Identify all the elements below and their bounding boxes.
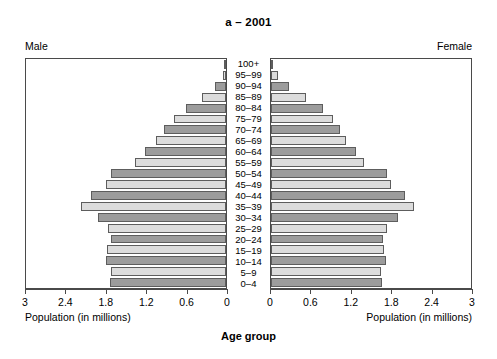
bar-male-80_84 [186,104,226,113]
bar-male-70_74 [164,125,226,134]
bar-male-55_59 [135,158,226,167]
bar-male-30_34 [98,213,226,222]
bar-row [271,212,471,223]
male-axis-caption: Population (in millions) [25,311,131,323]
bar-row [26,157,226,168]
bar-male-15_19 [107,245,226,254]
bar-row [271,234,471,245]
bar-female-90_94 [271,82,289,91]
bar-row [271,146,471,157]
bar-female-70_74 [271,125,340,134]
bar-row [271,124,471,135]
bar-female-45_49 [271,180,391,189]
bar-row [271,81,471,92]
bar-female-40_44 [271,191,405,200]
age-group-label: 30–34 [227,212,270,223]
axis-tick-label: 1.8 [384,296,399,308]
bar-male-75_79 [174,115,226,124]
bar-row [26,92,226,103]
bar-female-20_24 [271,235,383,244]
axis-tick [25,289,26,294]
age-group-label: 40–44 [227,190,270,201]
age-group-label: 60–64 [227,146,270,157]
bar-male-50_54 [111,169,226,178]
axis-tick [146,289,147,294]
bar-female-0_4 [271,278,382,287]
bar-male-95_99 [223,71,226,80]
axis-tick-label: 0 [267,296,273,308]
bar-row [271,201,471,212]
bar-row [26,201,226,212]
bar-female-30_34 [271,213,398,222]
bar-male-85_89 [202,93,226,102]
axis-line [270,289,472,290]
female-side-label: Female [437,40,472,52]
bar-row [26,70,226,81]
axis-tick-label: 1.8 [98,296,113,308]
axis-tick-label: 1.2 [343,296,358,308]
age-group-label: 100+ [227,58,270,69]
bar-row [271,59,471,70]
male-side-label: Male [25,40,48,52]
bar-row [26,190,226,201]
bar-female-10_14 [271,256,386,265]
bar-row [26,244,226,255]
male-bar-rows [26,59,226,288]
axis-tick [310,289,311,294]
chart-title: a – 2001 [0,16,497,28]
bar-female-55_59 [271,158,364,167]
bar-row [26,277,226,288]
bar-row [271,244,471,255]
age-group-label: 85–89 [227,91,270,102]
bar-row [271,92,471,103]
bar-row [26,266,226,277]
age-group-label: 50–54 [227,168,270,179]
bar-female-80_84 [271,104,323,113]
age-group-label: 15–19 [227,245,270,256]
axis-title: Age group [0,330,497,342]
female-plot-area [270,58,472,289]
axis-tick-label: 3 [22,296,28,308]
bar-female-95_99 [271,71,278,80]
age-group-label: 75–79 [227,113,270,124]
bar-male-0_4 [110,278,226,287]
age-group-label: 95–99 [227,69,270,80]
bar-male-35_39 [81,202,226,211]
female-x-axis [270,289,472,295]
bar-row [271,70,471,81]
age-group-label: 5–9 [227,267,270,278]
male-plot-area [25,58,227,289]
axis-tick [187,289,188,294]
male-x-tick-labels: 32.41.81.20.60 [25,296,227,310]
bar-row [271,266,471,277]
bar-row [26,81,226,92]
bar-male-10_14 [106,256,226,265]
axis-tick-label: 2.4 [424,296,439,308]
bar-male-40_44 [91,191,226,200]
bar-female-75_79 [271,115,333,124]
bar-female-60_64 [271,147,356,156]
age-group-label: 70–74 [227,124,270,135]
bar-female-85_89 [271,93,306,102]
bar-male-25_29 [108,224,226,233]
axis-tick [106,289,107,294]
bar-row [26,103,226,114]
bar-row [26,212,226,223]
female-axis-caption: Population (in millions) [366,311,472,323]
bar-male-45_49 [106,180,226,189]
bar-row [26,124,226,135]
bar-row [26,114,226,125]
bar-row [26,255,226,266]
axis-tick [432,289,433,294]
age-group-label: 10–14 [227,256,270,267]
female-bar-rows [271,59,471,288]
bar-male-90_94 [215,82,226,91]
age-group-label: 0–4 [227,278,270,289]
bar-row [26,135,226,146]
age-group-label: 35–39 [227,201,270,212]
bar-row [271,179,471,190]
bar-row [26,146,226,157]
age-group-label: 20–24 [227,234,270,245]
age-group-labels: 100+95–9990–9485–8980–8475–7970–7465–696… [227,58,270,289]
bar-row [271,255,471,266]
